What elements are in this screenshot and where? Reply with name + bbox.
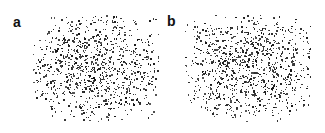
speckle-canvas-a bbox=[33, 14, 159, 122]
panel-label-a: a bbox=[13, 15, 21, 29]
panel-label-b: b bbox=[167, 14, 176, 28]
speckle-field-b bbox=[185, 14, 311, 122]
figure-root: a b bbox=[0, 0, 325, 133]
speckle-canvas-b bbox=[185, 14, 311, 122]
speckle-field-a bbox=[33, 14, 159, 122]
